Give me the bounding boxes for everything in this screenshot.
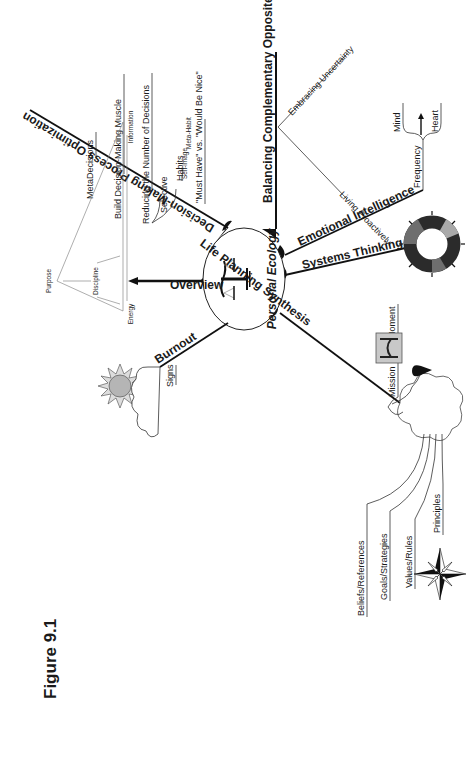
- mind-map-rotated: Figure 9.1 Personal Ecology Decision-Ma: [0, 0, 469, 759]
- compass-rose-icon: N: [407, 548, 466, 600]
- item-self-image: Self-image: [181, 148, 189, 179]
- sun-cloud-icon: [98, 364, 160, 437]
- branch-label-overview: Overview: [170, 278, 224, 292]
- branch-label-balancing: Balancing Complementary Opposites: [261, 0, 275, 203]
- item-signs: Signs: [165, 364, 175, 387]
- branch-label-burnout: Burnout: [152, 329, 199, 366]
- arrow-head-icon: [418, 113, 424, 119]
- thought-cloud-icon: [398, 373, 463, 440]
- triangle-purpose: Purpose: [45, 269, 53, 294]
- arrow-head-icon: [128, 277, 138, 285]
- item-selective: Selective: [159, 176, 169, 213]
- figure-title: Figure 9.1: [41, 619, 60, 699]
- cycle-ring-icon: [399, 211, 465, 277]
- center-label: Personal Ecology: [265, 227, 279, 329]
- branch-decision-making: Decision-Making Process Optimization Met…: [20, 71, 228, 235]
- item-goals: Goals/Strategies: [379, 533, 389, 600]
- triangle-information: Information: [127, 110, 134, 143]
- triangle-discipline: Discipline: [92, 267, 100, 295]
- item-metadecisions: MetaDecisions: [85, 139, 95, 199]
- item-build-muscle: Build Decision-Making Muscle: [113, 99, 123, 219]
- triangle-energy: Energy: [127, 303, 135, 324]
- item-principles: Principles: [432, 493, 442, 533]
- item-must-have: "Must Have" vs. "Would Be Nice": [194, 71, 204, 203]
- item-mind: Mind: [392, 112, 402, 132]
- item-frequency: Frequency: [412, 145, 422, 188]
- item-meta-habit: Meta-Habit: [185, 117, 192, 149]
- item-embracing: Embracing Uncertainty: [286, 44, 356, 118]
- item-reducing: Reducing the Number of Decisions: [141, 84, 151, 224]
- bridge-picture-icon: [376, 333, 402, 363]
- compass-north-label: N: [407, 573, 413, 577]
- item-values: Values/Rules: [404, 535, 414, 588]
- mind-map: Figure 9.1 Personal Ecology Decision-Ma: [0, 0, 469, 759]
- item-beliefs: Beliefs/References: [356, 540, 366, 616]
- item-mission: Mission: [387, 366, 397, 397]
- branch-burnout: Burnout Signs: [98, 323, 228, 437]
- item-heart: Heart: [430, 109, 440, 132]
